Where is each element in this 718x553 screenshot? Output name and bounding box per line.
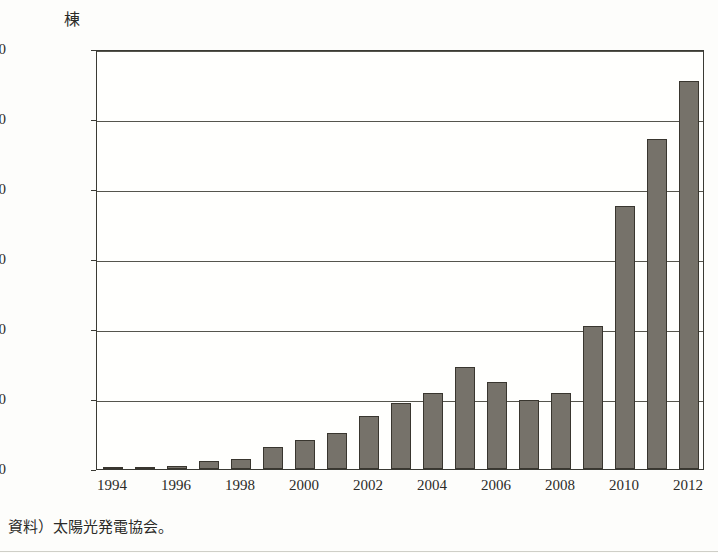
x-tick-label: 2000 bbox=[276, 477, 332, 493]
y-tick-label: 200,000 bbox=[0, 182, 6, 197]
gridline bbox=[97, 51, 703, 52]
y-tick-label: 0 bbox=[0, 462, 6, 477]
y-tick-label: 50,000 bbox=[0, 392, 6, 407]
bar bbox=[455, 367, 475, 469]
bar bbox=[327, 433, 347, 469]
bar bbox=[487, 382, 507, 469]
bar bbox=[647, 139, 667, 469]
x-tick-label: 2004 bbox=[404, 477, 460, 493]
y-tick-label: 150,000 bbox=[0, 252, 6, 267]
gridline bbox=[97, 191, 703, 192]
bar bbox=[295, 440, 315, 469]
gridline bbox=[97, 401, 703, 402]
bar bbox=[615, 206, 635, 469]
bar bbox=[551, 393, 571, 469]
gridline bbox=[97, 331, 703, 332]
bar bbox=[359, 416, 379, 469]
x-tick-label: 1994 bbox=[84, 477, 140, 493]
x-tick-label: 2006 bbox=[468, 477, 524, 493]
y-tick-label: 250,000 bbox=[0, 112, 6, 127]
x-tick-label: 1998 bbox=[212, 477, 268, 493]
gridline bbox=[97, 121, 703, 122]
source-note: 資料）太陽光発電協会。 bbox=[8, 515, 173, 536]
bar bbox=[135, 467, 155, 469]
bar bbox=[423, 393, 443, 469]
bar bbox=[199, 461, 219, 469]
x-tick-label: 2002 bbox=[340, 477, 396, 493]
bottom-rule bbox=[0, 551, 718, 552]
plot-area bbox=[96, 50, 704, 470]
gridline bbox=[97, 261, 703, 262]
y-tick-label: 300,000 bbox=[0, 42, 6, 57]
y-tick-mark bbox=[91, 470, 96, 471]
y-tick-label: 100,000 bbox=[0, 322, 6, 337]
bar bbox=[679, 81, 699, 469]
x-tick-label: 2012 bbox=[660, 477, 716, 493]
bar bbox=[519, 400, 539, 469]
bar bbox=[263, 447, 283, 469]
x-tick-label: 2010 bbox=[596, 477, 652, 493]
bar bbox=[167, 466, 187, 470]
x-tick-label: 1996 bbox=[148, 477, 204, 493]
x-tick-label: 2008 bbox=[532, 477, 588, 493]
bar bbox=[231, 459, 251, 469]
bar-chart-figure: 棟 050,000100,000150,000200,000250,000300… bbox=[0, 0, 718, 553]
bar bbox=[103, 467, 123, 469]
y-axis-unit-label: 棟 bbox=[64, 6, 80, 30]
bar bbox=[391, 403, 411, 469]
bar bbox=[583, 326, 603, 469]
